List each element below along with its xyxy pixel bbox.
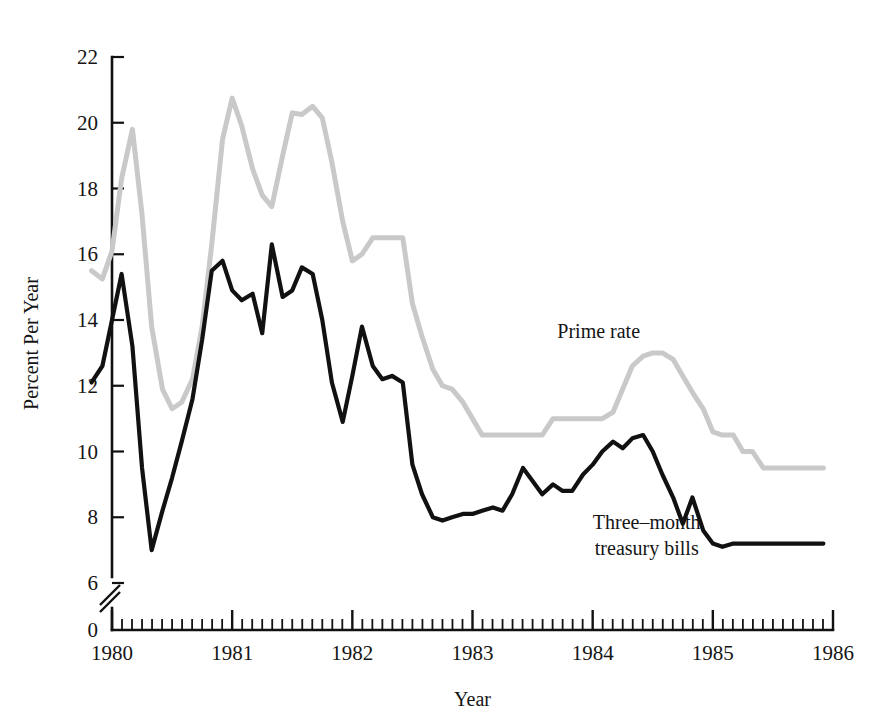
y-axis-tick-label: 20 xyxy=(77,111,98,135)
y-axis-tick-label: 18 xyxy=(77,177,98,201)
y-axis-tick-label: 10 xyxy=(77,440,98,464)
x-axis-tick-label: 1983 xyxy=(452,641,494,665)
y-axis-tick-label: 14 xyxy=(77,308,99,332)
y-axis-tick-label: 6 xyxy=(88,571,99,595)
x-axis-tick-label: 1981 xyxy=(211,641,253,665)
figure-container: 06810121416182022Percent Per Year1980198… xyxy=(0,0,888,722)
annotation-treasury-bills: Three–monthtreasury bills xyxy=(593,511,701,560)
interest-rate-line-chart: 06810121416182022Percent Per Year1980198… xyxy=(0,0,888,722)
series-line-prime-rate xyxy=(92,98,824,468)
x-axis-title: Year xyxy=(454,688,491,710)
y-axis-title: Percent Per Year xyxy=(20,277,42,410)
x-axis-tick-label: 1985 xyxy=(692,641,734,665)
x-axis-tick-label: 1984 xyxy=(572,641,615,665)
y-axis-tick-label: 16 xyxy=(77,242,98,266)
y-axis-tick-label: 22 xyxy=(77,45,98,69)
x-axis-tick-label: 1986 xyxy=(812,641,854,665)
annotation-treasury-bills-line1: Three–month xyxy=(593,511,701,533)
y-axis-tick-label: 0 xyxy=(88,618,99,642)
annotation-treasury-bills-line2: treasury bills xyxy=(595,537,699,560)
y-axis-tick-label: 8 xyxy=(88,505,99,529)
x-axis-tick-label: 1982 xyxy=(331,641,373,665)
x-axis-tick-label: 1980 xyxy=(91,641,133,665)
annotation-prime-rate: Prime rate xyxy=(557,320,640,342)
